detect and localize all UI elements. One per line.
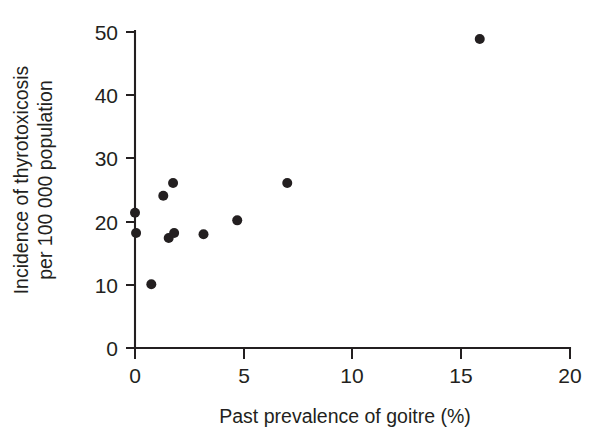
data-point [232,215,242,225]
data-point [282,178,292,188]
data-point [130,208,140,218]
y-axis-ticks [126,32,135,348]
y-tick-label-10: 10 [95,274,118,297]
x-axis-tick-labels: 0 5 10 15 20 [129,364,582,387]
data-point [475,34,485,44]
y-axis-title-line1: Incidence of thyrotoxicosis [10,65,32,294]
x-tick-label-15: 15 [449,364,472,387]
x-axis-title: Past prevalence of goitre (%) [219,405,470,427]
y-tick-label-0: 0 [106,337,118,360]
chart-figure: 50 40 30 20 10 0 0 5 10 15 20 Past preva… [0,0,605,446]
y-axis-title-line2: per 100 000 population [34,80,56,280]
data-point [169,228,179,238]
data-point [131,228,141,238]
scatter-plot: 50 40 30 20 10 0 0 5 10 15 20 Past preva… [0,0,605,446]
data-point [199,229,209,239]
x-tick-label-10: 10 [340,364,363,387]
y-tick-label-20: 20 [95,211,118,234]
data-point [168,178,178,188]
data-points-layer [130,34,485,289]
x-tick-label-0: 0 [129,364,141,387]
y-tick-label-30: 30 [95,147,118,170]
x-tick-label-20: 20 [558,364,581,387]
data-point [146,279,156,289]
data-point [158,191,168,201]
y-axis-tick-labels: 50 40 30 20 10 0 [95,21,118,360]
x-tick-label-5: 5 [238,364,250,387]
y-tick-label-40: 40 [95,84,118,107]
y-tick-label-50: 50 [95,21,118,44]
x-axis-ticks [135,348,570,359]
